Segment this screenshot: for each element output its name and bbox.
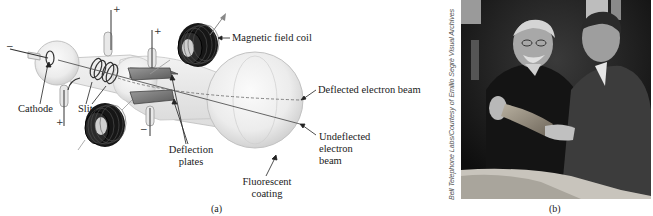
label-deflection-line2: plates	[160, 156, 222, 168]
label-undeflected-line3: beam	[319, 155, 342, 167]
historical-photograph	[461, 0, 651, 199]
anode-plus-sign: +	[56, 117, 64, 127]
slit-plus-sign: +	[113, 4, 121, 14]
figure: − + + + − Magnetic field coil Deflected …	[0, 0, 653, 216]
caption-a: (a)	[211, 203, 222, 214]
label-deflection-line1: Deflection	[160, 144, 222, 156]
plate-minus-sign: −	[140, 124, 148, 134]
plate-plus-sign: +	[154, 26, 162, 36]
label-magnetic-field-coil: Magnetic field coil	[232, 32, 312, 44]
photo-credit: Bell Telephone Labs/Courtesy of Emilio S…	[447, 0, 456, 200]
label-slits: Slits	[78, 103, 97, 115]
caption-b: (b)	[549, 203, 561, 214]
label-undeflected-line1: Undeflected	[319, 131, 370, 143]
label-fluorescent-line2: coating	[232, 188, 302, 200]
label-cathode: Cathode	[18, 103, 53, 115]
crt-diagram	[0, 0, 460, 216]
label-fluorescent-line1: Fluorescent	[232, 176, 302, 188]
cathode-minus-sign: −	[6, 41, 14, 51]
label-undeflected-line2: electron	[319, 143, 353, 155]
photo-scene	[461, 0, 651, 199]
label-deflected-electron-beam: Deflected electron beam	[318, 84, 421, 96]
